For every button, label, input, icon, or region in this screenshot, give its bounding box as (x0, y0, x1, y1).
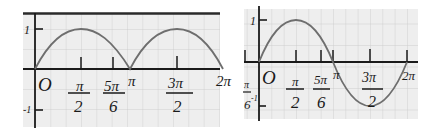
x-label-pi: π (128, 73, 136, 89)
y-label-neg1: -1 (23, 104, 31, 115)
x-label-pi-half-den: 2 (74, 97, 83, 116)
x-label-3pi-half-den: 2 (368, 93, 376, 110)
neg-pi-6-den: 6 (244, 97, 251, 112)
x-label-3pi-half-num: 3π (167, 75, 184, 91)
y-label-1: 1 (24, 23, 30, 37)
x-label-5pi-6-den: 6 (317, 93, 326, 112)
x-label-2pi: 2π (216, 73, 232, 89)
y-label-neg1: -1 (251, 94, 258, 103)
grid-background (244, 9, 418, 119)
x-label-3pi-half-num: 3π (361, 70, 377, 85)
x-label-5pi-6-den: 6 (109, 97, 118, 116)
x-label-pi-half-num: π (76, 78, 84, 94)
origin-label: O (262, 67, 276, 88)
x-label-pi-half-den: 2 (291, 93, 300, 112)
x-label-5pi-6-num: 5π (314, 72, 328, 87)
grid-background (23, 14, 220, 127)
sine-chart: 1 O π 6 -1 π 2 5π 6 π 3π 2 2π (243, 6, 418, 121)
origin-label: O (38, 74, 52, 95)
chart-canvas: 1 -1 O π 2 5π 6 π 3π 2 2π 1 O (0, 0, 434, 138)
x-label-pi: π (333, 67, 340, 82)
x-label-pi-half-num: π (292, 74, 299, 89)
x-label-3pi-half-den: 2 (173, 97, 182, 116)
x-label-5pi-6-num: 5π (104, 78, 120, 94)
abs-sine-chart: 1 -1 O π 2 5π 6 π 3π 2 2π (23, 13, 232, 128)
x-label-2pi: 2π (402, 68, 416, 83)
y-label-1: 1 (250, 14, 256, 28)
